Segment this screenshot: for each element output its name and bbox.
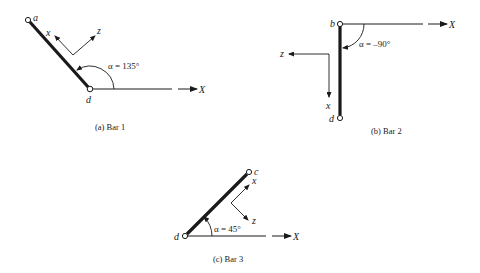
bar3-node-c [246,169,251,174]
bar3-local-x-label: x [251,175,257,186]
bar2-global-x-label: X [448,19,456,30]
bar3-global-x-label: X [292,231,300,242]
bar2-node-b-label: b [330,18,335,29]
bar1-node-d [87,86,93,92]
bar1-node-d-label: d [86,94,92,105]
bar2-node-d-label: d [329,113,335,124]
bar2-angle-label: α = –90° [359,39,391,49]
bar1-local-z-arrow [73,36,95,55]
bar1-node-a [25,17,30,22]
bar3-node-d-label: d [174,231,180,242]
bar3-node-d [182,233,187,238]
bar2-node-d [337,115,342,120]
bar1-local-x-label: x [45,27,51,38]
bar1-angle-label: α = 135° [108,61,140,71]
bar3-group: c d X α = 45° x z (c) Bar 3 [174,166,300,264]
bar3-caption: (c) Bar 3 [213,254,243,264]
bar1-global-x-label: X [198,84,206,95]
bar3-local-z-arrow [231,203,248,220]
bar1-local-z-label: z [96,25,101,36]
bar1-member [29,21,89,88]
bar3-angle-label: α = 45° [214,224,241,234]
bar2-local-z-label: z [279,48,284,59]
bar2-caption: (b) Bar 2 [371,126,402,136]
bar1-caption: (a) Bar 1 [95,122,125,132]
bar3-angle-arc [204,217,212,236]
bar2-group: b d X α = –90° z x (b) Bar 2 [279,18,456,136]
bar1-group: a d X α = 135° x z (a) Bar 1 [25,12,206,132]
bar2-node-b [337,21,342,26]
bar1-node-a-label: a [33,12,38,23]
bar2-local-x-label: x [325,100,331,111]
bar3-local-z-label: z [251,215,256,226]
bar-orientation-diagram: a d X α = 135° x z (a) Bar 1 b d X α = –… [0,0,480,273]
